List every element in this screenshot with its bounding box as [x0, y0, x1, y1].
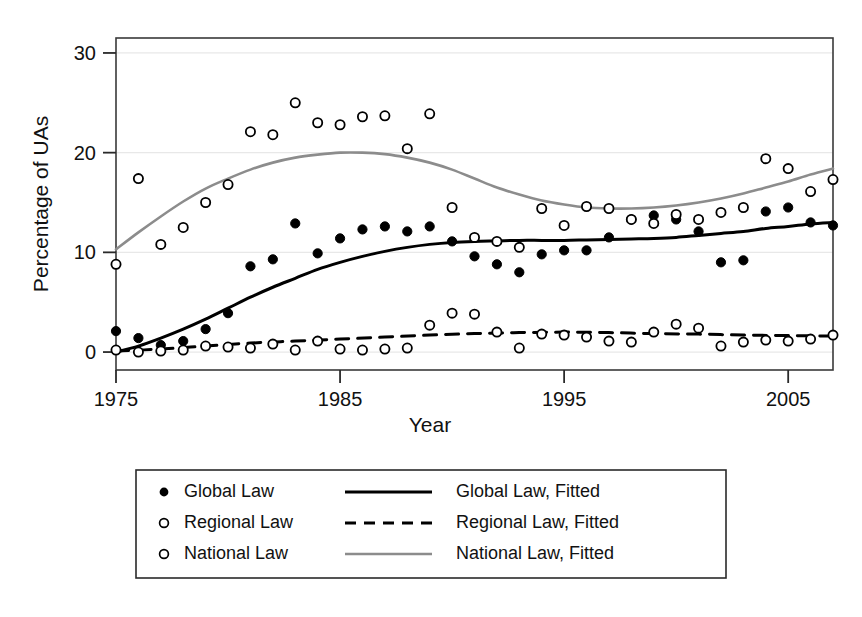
data-point-regional-law — [223, 342, 232, 351]
data-point-regional-law — [761, 335, 770, 344]
data-point-national-law — [470, 233, 479, 242]
data-point-national-law — [784, 164, 793, 173]
data-point-regional-law — [672, 320, 681, 329]
data-point-regional-law — [604, 336, 613, 345]
legend-marker-national-law — [160, 550, 169, 559]
data-point-national-law — [156, 240, 165, 249]
data-point-regional-law — [694, 324, 703, 333]
data-point-regional-law — [313, 336, 322, 345]
data-point-national-law — [492, 237, 501, 246]
data-point-regional-law — [447, 309, 456, 318]
x-tick-label-1985: 1985 — [318, 388, 363, 410]
data-point-global-law — [739, 256, 748, 265]
data-point-global-law — [582, 246, 591, 255]
data-point-regional-law — [515, 343, 524, 352]
data-point-global-law — [470, 252, 479, 261]
data-point-global-law — [560, 246, 569, 255]
data-point-regional-law — [358, 345, 367, 354]
data-point-regional-law — [425, 321, 434, 330]
data-point-national-law — [694, 215, 703, 224]
data-point-global-law — [784, 203, 793, 212]
data-point-national-law — [380, 111, 389, 120]
data-point-global-law — [403, 227, 412, 236]
y-tick-label-30: 30 — [74, 42, 96, 64]
legend-label-national-law: National Law — [184, 543, 289, 563]
data-point-global-law — [134, 333, 143, 342]
data-point-regional-law — [179, 345, 188, 354]
x-tick-label-1975: 1975 — [94, 388, 139, 410]
data-point-national-law — [582, 202, 591, 211]
data-point-regional-law — [246, 343, 255, 352]
data-point-global-law — [425, 222, 434, 231]
data-point-regional-law — [560, 331, 569, 340]
figure-container: 0102030 1975198519952005 Percentage of U… — [0, 0, 862, 617]
data-point-global-law — [537, 250, 546, 259]
y-tick-label-20: 20 — [74, 142, 96, 164]
data-point-national-law — [335, 120, 344, 129]
x-tick-label-1995: 1995 — [542, 388, 587, 410]
data-point-regional-law — [403, 343, 412, 352]
data-point-national-law — [268, 130, 277, 139]
y-tick-label-10: 10 — [74, 241, 96, 263]
legend-marker-global-law — [160, 488, 169, 497]
data-point-national-law — [828, 175, 837, 184]
data-point-regional-law — [111, 345, 120, 354]
data-point-global-law — [268, 255, 277, 264]
data-point-national-law — [358, 112, 367, 121]
data-point-global-law — [291, 219, 300, 228]
data-point-regional-law — [291, 345, 300, 354]
data-point-regional-law — [156, 346, 165, 355]
data-point-global-law — [313, 249, 322, 258]
data-point-global-law — [246, 262, 255, 271]
data-point-national-law — [447, 203, 456, 212]
data-point-global-law — [716, 258, 725, 267]
data-point-national-law — [560, 221, 569, 230]
data-point-national-law — [515, 243, 524, 252]
data-point-global-law — [358, 225, 367, 234]
legend-fitted-label-national-law: National Law, Fitted — [456, 543, 614, 563]
data-point-national-law — [223, 180, 232, 189]
data-point-global-law — [447, 237, 456, 246]
x-tick-label-2005: 2005 — [766, 388, 811, 410]
data-point-national-law — [134, 174, 143, 183]
data-point-national-law — [672, 210, 681, 219]
data-point-global-law — [223, 309, 232, 318]
data-point-global-law — [492, 260, 501, 269]
data-point-national-law — [201, 198, 210, 207]
data-point-national-law — [111, 260, 120, 269]
data-point-national-law — [537, 204, 546, 213]
data-point-national-law — [739, 203, 748, 212]
data-point-national-law — [806, 187, 815, 196]
data-point-regional-law — [828, 331, 837, 340]
data-point-regional-law — [649, 328, 658, 337]
legend: Global LawGlobal Law, FittedRegional Law… — [136, 470, 726, 578]
data-point-global-law — [515, 268, 524, 277]
legend-label-global-law: Global Law — [184, 481, 275, 501]
data-point-national-law — [179, 223, 188, 232]
x-axis-label: Year — [409, 413, 451, 436]
data-point-national-law — [291, 98, 300, 107]
data-point-regional-law — [582, 332, 591, 341]
legend-fitted-label-global-law: Global Law, Fitted — [456, 481, 600, 501]
y-tick-label-0: 0 — [85, 341, 96, 363]
data-point-regional-law — [335, 344, 344, 353]
data-point-global-law — [604, 233, 613, 242]
data-point-regional-law — [492, 328, 501, 337]
y-axis-label: Percentage of UAs — [29, 116, 52, 292]
data-point-regional-law — [201, 341, 210, 350]
chart-svg: 0102030 1975198519952005 Percentage of U… — [0, 0, 862, 617]
data-point-national-law — [649, 219, 658, 228]
data-point-regional-law — [537, 330, 546, 339]
data-point-regional-law — [380, 344, 389, 353]
legend-label-regional-law: Regional Law — [184, 512, 294, 532]
data-point-national-law — [604, 204, 613, 213]
legend-marker-regional-law — [160, 519, 169, 528]
data-point-regional-law — [470, 310, 479, 319]
data-point-regional-law — [784, 336, 793, 345]
data-point-global-law — [828, 221, 837, 230]
data-point-regional-law — [627, 337, 636, 346]
data-point-national-law — [403, 144, 412, 153]
data-point-regional-law — [716, 341, 725, 350]
data-point-global-law — [179, 336, 188, 345]
data-point-national-law — [627, 215, 636, 224]
